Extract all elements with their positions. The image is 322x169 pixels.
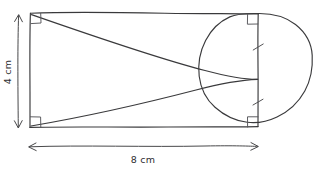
width-dimension-arrow <box>29 143 259 151</box>
triangle-upper-side <box>32 15 258 80</box>
geometry-figure-canvas: 4 cm 8 cm <box>0 0 322 169</box>
rectangle-top-edge <box>31 12 259 14</box>
right-angle-icon-top-right <box>247 14 258 24</box>
right-angle-marks <box>30 13 258 127</box>
triangle-shape <box>31 15 258 126</box>
rectangle-shape <box>30 12 258 127</box>
right-angle-icon-bottom-right <box>248 117 259 127</box>
height-dimension-arrow <box>14 15 22 128</box>
height-dimension-label: 4 cm <box>2 60 13 84</box>
width-dimension-label-group: 8 cm <box>131 154 155 165</box>
rectangle-left-edge <box>30 13 31 127</box>
height-dimension-line <box>18 16 19 128</box>
height-dimension-label-group: 4 cm <box>2 60 13 84</box>
circle-shape <box>199 13 313 122</box>
width-dimension-label: 8 cm <box>131 154 155 165</box>
geometry-diagram-svg: 4 cm 8 cm <box>0 0 322 169</box>
rectangle-bottom-edge <box>30 127 258 128</box>
width-dimension-line <box>30 146 258 147</box>
triangle-lower-side <box>31 79 258 126</box>
